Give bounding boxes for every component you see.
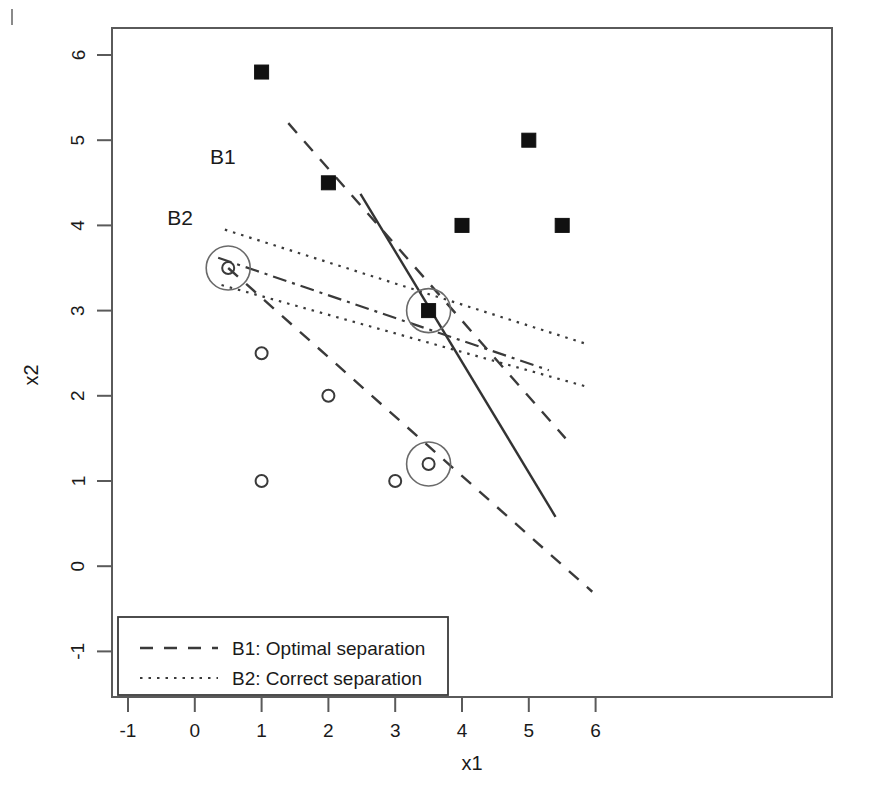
scatter-plot-svg: -10123456 -10123456 x1 x2 B1B2 B1: Optim…: [0, 0, 870, 799]
x-tick-label: 5: [524, 720, 535, 741]
data-point-square: [555, 218, 569, 232]
y-tick-label: 0: [68, 561, 89, 572]
x-tick-label: 3: [390, 720, 401, 741]
y-tick-label: 4: [68, 220, 89, 231]
x-tick-label: 0: [190, 720, 201, 741]
data-point-circle: [389, 475, 401, 487]
legend[interactable]: B1: Optimal separationB2: Correct separa…: [118, 617, 448, 695]
data-point-circle: [322, 390, 334, 402]
data-point-square: [455, 218, 469, 232]
data-point-square: [522, 133, 536, 147]
x-axis-title: x1: [461, 752, 482, 774]
y-axis-tick-labels: -10123456: [68, 50, 89, 660]
boundary-lines-group: [218, 123, 592, 592]
data-point-square: [321, 176, 335, 190]
y-tick-label: 1: [68, 476, 89, 487]
B1-margin-lower: [228, 268, 592, 592]
y-tick-label: -1: [68, 643, 89, 660]
legend-label: B1: Optimal separation: [232, 638, 425, 659]
legend-label: B2: Correct separation: [232, 668, 422, 689]
plot-frame: [112, 28, 832, 697]
y-axis-ticks: [97, 55, 112, 651]
annotation-b1: B1: [210, 145, 236, 168]
data-point-circle: [423, 458, 435, 470]
B2-margin-upper: [225, 230, 589, 345]
B1-margin-upper: [288, 123, 565, 438]
x-tick-label: 2: [323, 720, 334, 741]
data-point-circle: [256, 347, 268, 359]
x-axis-tick-labels: -10123456: [120, 720, 601, 741]
support-vector-ring: [407, 442, 451, 486]
y-axis-title: x2: [20, 364, 42, 385]
x-tick-label: -1: [120, 720, 137, 741]
y-tick-label: 2: [68, 391, 89, 402]
y-tick-label: 5: [68, 135, 89, 146]
x-tick-label: 4: [457, 720, 468, 741]
x-tick-label: 1: [256, 720, 267, 741]
annotation-b2: B2: [167, 206, 193, 229]
data-point-square: [422, 304, 436, 318]
data-point-square: [255, 65, 269, 79]
figure-canvas: -10123456 -10123456 x1 x2 B1B2 B1: Optim…: [0, 0, 870, 799]
curve-annotations: B1B2: [167, 145, 235, 229]
B1-decision-boundary: [360, 194, 555, 517]
B2-margin-lower: [222, 285, 589, 387]
data-point-circle: [256, 475, 268, 487]
y-tick-label: 3: [68, 305, 89, 316]
x-axis-ticks: [128, 697, 596, 712]
y-tick-label: 6: [68, 50, 89, 61]
x-tick-label: 6: [590, 720, 601, 741]
